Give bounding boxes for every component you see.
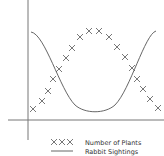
plant-data-point-x-icon [63, 55, 69, 61]
plant-data-point-x-icon [155, 105, 161, 111]
plant-data-point-x-icon [45, 88, 51, 94]
rabbit-sightings-line [31, 31, 156, 112]
number-of-plants-series [30, 28, 161, 112]
plant-data-point-x-icon [129, 65, 135, 71]
plant-data-point-x-icon [140, 86, 146, 92]
legend: Number of Plants Rabbit Sightings [51, 139, 142, 156]
plant-data-point-x-icon [122, 54, 128, 60]
plant-data-point-x-icon [50, 76, 56, 82]
plant-data-point-x-icon [77, 34, 83, 40]
plant-data-point-x-icon [30, 106, 36, 112]
legend-plants-label: Number of Plants [85, 139, 142, 147]
plant-data-point-x-icon [96, 28, 102, 34]
plant-data-point-x-icon [114, 44, 120, 50]
plant-data-point-x-icon [69, 45, 75, 51]
plant-data-point-x-icon [147, 96, 153, 102]
plant-data-point-x-icon [134, 76, 140, 82]
legend-rabbits-label: Rabbit Sightings [85, 148, 139, 156]
plant-data-point-x-icon [86, 28, 92, 34]
chart-canvas: Number of Plants Rabbit Sightings [0, 0, 164, 156]
legend-plants-marker-icon [51, 139, 73, 145]
plant-data-point-x-icon [106, 34, 112, 40]
plant-data-point-x-icon [56, 66, 62, 72]
plant-data-point-x-icon [39, 98, 45, 104]
